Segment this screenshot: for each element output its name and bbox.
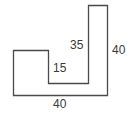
label-notch-depth: 15 bbox=[53, 62, 66, 74]
label-inner-column-height: 35 bbox=[70, 39, 83, 51]
label-outer-height: 40 bbox=[112, 44, 125, 56]
dimension-diagram: 35 40 15 40 bbox=[0, 0, 130, 114]
shape-outline bbox=[14, 6, 108, 96]
label-bottom-width: 40 bbox=[53, 98, 66, 110]
